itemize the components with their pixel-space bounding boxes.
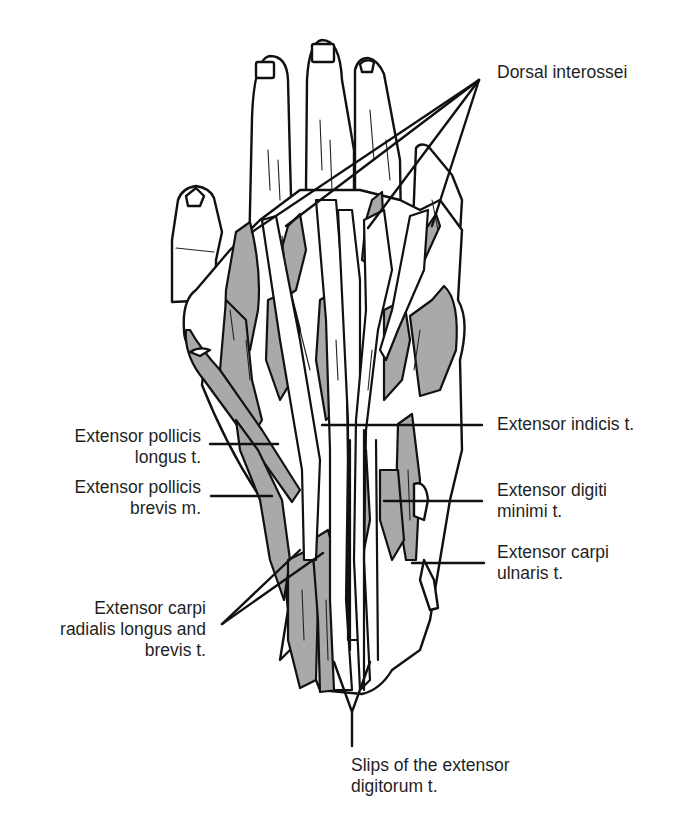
label-line: Slips of the extensor xyxy=(351,755,510,776)
label-extensor-indicis: Extensor indicis t. xyxy=(497,414,634,435)
label-line: ulnaris t. xyxy=(497,563,609,584)
label-line: Extensor digiti xyxy=(497,480,607,501)
label-line: Dorsal interossei xyxy=(497,62,627,83)
label-extensor-digiti-minimi: Extensor digiti minimi t. xyxy=(497,480,607,522)
label-extensor-carpi-ulnaris: Extensor carpi ulnaris t. xyxy=(497,542,609,584)
hand-anatomy-illustration xyxy=(0,0,688,821)
label-line: digitorum t. xyxy=(351,776,510,797)
label-line: Extensor carpi xyxy=(60,598,206,619)
label-line: brevis t. xyxy=(60,640,206,661)
label-line: minimi t. xyxy=(497,501,607,522)
label-line: radialis longus and xyxy=(60,619,206,640)
label-line: brevis m. xyxy=(75,498,201,519)
label-extensor-pollicis-longus: Extensor pollicis longus t. xyxy=(75,426,201,468)
label-line: Extensor carpi xyxy=(497,542,609,563)
label-line: Extensor pollicis xyxy=(75,426,201,447)
label-line: Extensor pollicis xyxy=(75,477,201,498)
label-dorsal-interossei: Dorsal interossei xyxy=(497,62,627,83)
label-line: Extensor indicis t. xyxy=(497,414,634,435)
label-extensor-carpi-radialis: Extensor carpi radialis longus and brevi… xyxy=(60,598,206,661)
label-slips-extensor-digitorum: Slips of the extensor digitorum t. xyxy=(351,755,510,797)
label-line: longus t. xyxy=(75,447,201,468)
label-extensor-pollicis-brevis: Extensor pollicis brevis m. xyxy=(75,477,201,519)
